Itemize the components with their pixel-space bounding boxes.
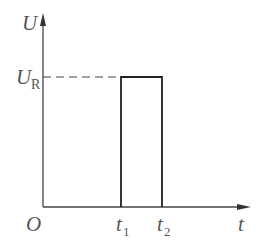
- pulse-rectangle: [121, 77, 162, 207]
- t2-label-subscript: 2: [164, 224, 171, 239]
- x-axis-arrow-icon: [237, 204, 251, 210]
- origin-label: O: [26, 212, 41, 236]
- pulse-diagram: U U R O t 1 t 2 t: [0, 0, 269, 249]
- t1-label-subscript: 1: [123, 224, 130, 239]
- t1-label: t: [116, 212, 123, 236]
- y-axis-arrow-icon: [40, 13, 46, 26]
- t2-label: t: [157, 212, 164, 236]
- x-axis-label: t: [238, 212, 245, 236]
- ur-label-subscript: R: [31, 77, 41, 92]
- y-axis-label: U: [22, 11, 39, 35]
